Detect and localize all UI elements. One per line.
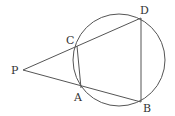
label-d: D <box>140 4 149 17</box>
label-b: B <box>143 102 151 115</box>
secant-pd <box>23 18 141 70</box>
diagram-canvas: P C A D B <box>0 0 175 116</box>
label-c: C <box>66 34 74 47</box>
label-a: A <box>73 91 83 104</box>
secant-pb <box>23 70 141 102</box>
label-p: P <box>11 64 19 77</box>
